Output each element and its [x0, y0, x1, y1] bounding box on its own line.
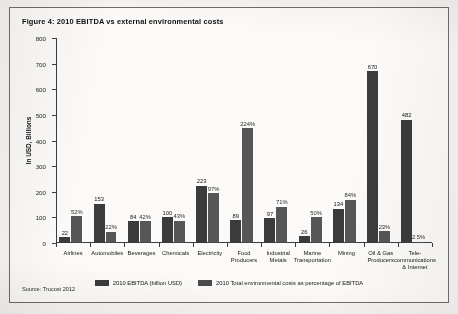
legend-swatch: [198, 280, 212, 286]
x-axis-tick: [364, 243, 365, 247]
bar-env-cost-pct: 23%: [379, 231, 390, 243]
bar-value-label: 482: [402, 112, 412, 118]
bar-value-label: 84%: [344, 192, 356, 198]
x-axis-tick: [432, 243, 433, 247]
x-axis-tick: [56, 243, 57, 247]
y-axis-tick-label: 600: [36, 86, 46, 93]
bar-value-label: 23%: [379, 224, 391, 230]
y-axis-tick-label: 200: [36, 188, 46, 195]
bar-group: 8442%Beverages: [124, 38, 158, 243]
bar-value-label: 22%: [105, 224, 117, 230]
bar-value-label: 97: [267, 211, 273, 217]
bar-group: 13484%Mining: [329, 38, 363, 243]
bar-value-label: 71%: [276, 199, 288, 205]
bar-value-label: 224%: [240, 121, 255, 127]
figure-frame: Figure 4: 2010 EBITDA vs external enviro…: [9, 7, 449, 303]
legend-item: 2010 Total environmental costs as percen…: [198, 280, 363, 286]
y-axis-tick-label: 800: [36, 35, 46, 42]
bar-env-cost-pct: 71%: [276, 207, 287, 243]
bar-env-cost-pct: 43%: [174, 221, 185, 243]
bar-value-label: 2.5%: [412, 234, 425, 240]
bar-value-label: 134: [333, 201, 343, 207]
y-axis-tick-label: 300: [36, 163, 46, 170]
bar-env-cost-pct: 22%: [106, 232, 117, 243]
bar-ebitda: 153: [94, 204, 105, 243]
y-axis-tick-label: 500: [36, 111, 46, 118]
bar-env-cost-pct: 52%: [71, 216, 82, 243]
x-axis-tick: [124, 243, 125, 247]
x-axis-tick: [159, 243, 160, 247]
legend-item: 2010 EBITDA (billion USD): [95, 280, 182, 286]
bar-env-cost-pct: 97%: [208, 193, 219, 243]
x-axis-category-label: Tele- communications & Internet: [393, 250, 437, 271]
legend-label: 2010 Total environmental costs as percen…: [216, 280, 363, 286]
x-axis-tick: [295, 243, 296, 247]
y-axis-title-text: In USD, Billions: [26, 117, 33, 165]
x-axis-tick: [329, 243, 330, 247]
y-axis-title: In USD, Billions: [24, 38, 34, 243]
y-axis-tick-label: 700: [36, 60, 46, 67]
bar-group: 15322%Automobiles: [90, 38, 124, 243]
bar-group: 9771%Industrial Metals: [261, 38, 295, 243]
bar-value-label: 153: [94, 196, 104, 202]
legend-label: 2010 EBITDA (billion USD): [113, 280, 182, 286]
bar-value-label: 52%: [71, 209, 83, 215]
figure-title: Figure 4: 2010 EBITDA vs external enviro…: [22, 17, 224, 26]
bar-ebitda: 670: [367, 71, 378, 243]
bar-group: 2252%Airlines: [56, 38, 90, 243]
bar-ebitda: 22: [59, 237, 70, 243]
y-axis-tick-label: 400: [36, 137, 46, 144]
bar-value-label: 97%: [208, 186, 220, 192]
bar-env-cost-pct: 2.5%: [413, 242, 424, 244]
bar-group: 22397%Electricity: [193, 38, 227, 243]
bar-group: 2650%Marine Transportation: [295, 38, 329, 243]
source-note: Source: Trucost 2012: [22, 286, 75, 292]
bar-env-cost-pct: 224%: [242, 128, 253, 243]
legend-swatch: [95, 280, 109, 286]
bar-group: 67023%Oil & Gas Producers: [364, 38, 398, 243]
bar-group: 10043%Chemicals: [159, 38, 193, 243]
y-axis-tick-label: 0: [43, 240, 46, 247]
bar-value-label: 42%: [139, 214, 151, 220]
y-axis-tick-label: 100: [36, 214, 46, 221]
scanned-page: Figure 4: 2010 EBITDA vs external enviro…: [0, 0, 458, 314]
bar-value-label: 50%: [310, 210, 322, 216]
x-axis-tick: [90, 243, 91, 247]
bar-value-label: 100: [163, 210, 173, 216]
bar-value-label: 670: [368, 64, 378, 70]
bar-ebitda: 97: [264, 218, 275, 243]
bar-ebitda: 134: [333, 209, 344, 243]
bar-ebitda: 482: [401, 120, 412, 244]
bar-value-label: 89: [233, 213, 239, 219]
x-axis-tick: [398, 243, 399, 247]
bar-value-label: 223: [197, 178, 207, 184]
plot-area: 0100200300400500600700800 2252%Airlines1…: [56, 38, 432, 243]
bar-env-cost-pct: 50%: [311, 217, 322, 243]
bar-ebitda: 100: [162, 217, 173, 243]
bar-ebitda: 84: [128, 221, 139, 243]
bar-ebitda: 89: [230, 220, 241, 243]
bar-value-label: 26: [301, 229, 307, 235]
bar-value-label: 84: [130, 214, 136, 220]
bar-ebitda: 223: [196, 186, 207, 243]
x-axis-tick: [227, 243, 228, 247]
x-axis-tick: [193, 243, 194, 247]
bar-value-label: 43%: [174, 213, 186, 219]
bar-group: 89224%Food Producers: [227, 38, 261, 243]
bar-value-label: 22: [62, 230, 68, 236]
bar-env-cost-pct: 42%: [140, 221, 151, 243]
x-axis-tick: [261, 243, 262, 247]
bar-env-cost-pct: 84%: [345, 200, 356, 243]
chart-legend: 2010 EBITDA (billion USD)2010 Total envi…: [10, 280, 448, 286]
bar-group: 4822.5%Tele- communications & Internet: [398, 38, 432, 243]
bar-ebitda: 26: [299, 236, 310, 243]
